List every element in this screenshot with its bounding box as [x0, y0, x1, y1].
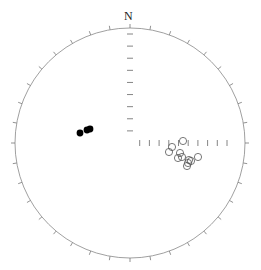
filled-points [77, 126, 94, 137]
axis-ticks [127, 34, 227, 146]
primitive-circle [15, 28, 245, 258]
filled-point [77, 130, 84, 137]
perimeter-ticks [11, 24, 249, 262]
open-point [194, 153, 201, 160]
open-point [179, 137, 186, 144]
open-points [165, 137, 201, 169]
open-point [178, 153, 185, 160]
filled-point [87, 126, 94, 133]
open-point [176, 149, 183, 156]
stereonet-plot [0, 0, 261, 270]
